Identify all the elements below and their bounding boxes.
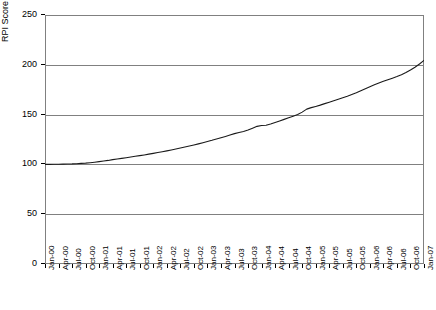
x-tick-label-Jul-01: Jul-01	[129, 248, 137, 270]
x-tick-label-Oct-05: Oct-05	[359, 246, 367, 270]
x-tick-label-Jul-02: Jul-02	[183, 248, 191, 270]
x-tick-mark-Jan-06	[370, 264, 371, 268]
x-tick-label-Apr-00: Apr-00	[62, 246, 70, 270]
x-tick-label-Apr-02: Apr-02	[170, 246, 178, 270]
y-tick-label-200: 200	[0, 60, 37, 69]
x-tick-label-Apr-05: Apr-05	[332, 246, 340, 270]
x-tick-mark-Apr-00	[59, 264, 60, 268]
gridline-y-150	[46, 115, 423, 116]
gridline-y-100	[46, 164, 423, 165]
x-tick-label-Jan-00: Jan-00	[48, 246, 56, 270]
x-tick-label-Jan-01: Jan-01	[102, 246, 110, 270]
x-tick-label-Jan-03: Jan-03	[210, 246, 218, 270]
y-tick-mark-50	[41, 213, 45, 214]
x-tick-label-Jul-00: Jul-00	[75, 248, 83, 270]
x-tick-label-Apr-03: Apr-03	[224, 246, 232, 270]
gridline-y-50	[46, 214, 423, 215]
y-axis-title: RPI Score	[0, 0, 14, 42]
x-tick-label-Oct-03: Oct-03	[251, 246, 259, 270]
rpi-score-line-chart: RPI Score 050100150200250 Jan-00Apr-00Ju…	[0, 0, 436, 310]
x-tick-label-Oct-00: Oct-00	[89, 246, 97, 270]
x-tick-mark-Jan-04	[262, 264, 263, 268]
x-tick-label-Jul-05: Jul-05	[346, 248, 354, 270]
x-tick-mark-Jan-01	[99, 264, 100, 268]
y-tick-mark-250	[41, 14, 45, 15]
x-tick-label-Jul-04: Jul-04	[292, 248, 300, 270]
x-tick-mark-Jul-06	[397, 264, 398, 268]
x-tick-mark-Jul-05	[343, 264, 344, 268]
x-tick-mark-Jan-07	[424, 264, 425, 268]
x-tick-label-Jul-03: Jul-03	[238, 248, 246, 270]
x-tick-label-Jan-06: Jan-06	[373, 246, 381, 270]
gridline-y-200	[46, 65, 423, 66]
x-tick-mark-Jan-00	[45, 264, 46, 268]
y-tick-mark-100	[41, 163, 45, 164]
x-tick-label-Oct-02: Oct-02	[197, 246, 205, 270]
x-tick-label-Jan-05: Jan-05	[319, 246, 327, 270]
y-tick-label-100: 100	[0, 159, 37, 168]
x-tick-label-Jul-06: Jul-06	[400, 248, 408, 270]
x-tick-label-Jan-07: Jan-07	[427, 246, 435, 270]
x-tick-mark-Apr-03	[221, 264, 222, 268]
x-tick-label-Apr-01: Apr-01	[116, 246, 124, 270]
x-tick-mark-Oct-03	[248, 264, 249, 268]
y-tick-label-150: 150	[0, 110, 37, 119]
x-tick-mark-Apr-01	[113, 264, 114, 268]
x-tick-mark-Apr-04	[275, 264, 276, 268]
x-tick-label-Oct-01: Oct-01	[143, 246, 151, 270]
x-tick-mark-Oct-00	[86, 264, 87, 268]
x-tick-mark-Jul-04	[289, 264, 290, 268]
y-tick-label-250: 250	[0, 10, 37, 19]
x-tick-label-Oct-04: Oct-04	[305, 246, 313, 270]
x-tick-label-Oct-06: Oct-06	[413, 246, 421, 270]
y-tick-label-0: 0	[0, 259, 37, 268]
plot-area	[45, 15, 424, 264]
y-tick-mark-200	[41, 64, 45, 65]
x-tick-mark-Oct-01	[140, 264, 141, 268]
x-tick-label-Jan-04: Jan-04	[265, 246, 273, 270]
x-tick-mark-Jan-05	[316, 264, 317, 268]
x-tick-label-Jan-02: Jan-02	[156, 246, 164, 270]
x-tick-label-Apr-06: Apr-06	[386, 246, 394, 270]
x-tick-label-Apr-04: Apr-04	[278, 246, 286, 270]
x-tick-mark-Jul-03	[235, 264, 236, 268]
y-tick-mark-150	[41, 114, 45, 115]
x-tick-mark-Oct-02	[194, 264, 195, 268]
y-tick-label-50: 50	[0, 209, 37, 218]
x-tick-mark-Jul-00	[72, 264, 73, 268]
x-tick-mark-Apr-02	[167, 264, 168, 268]
